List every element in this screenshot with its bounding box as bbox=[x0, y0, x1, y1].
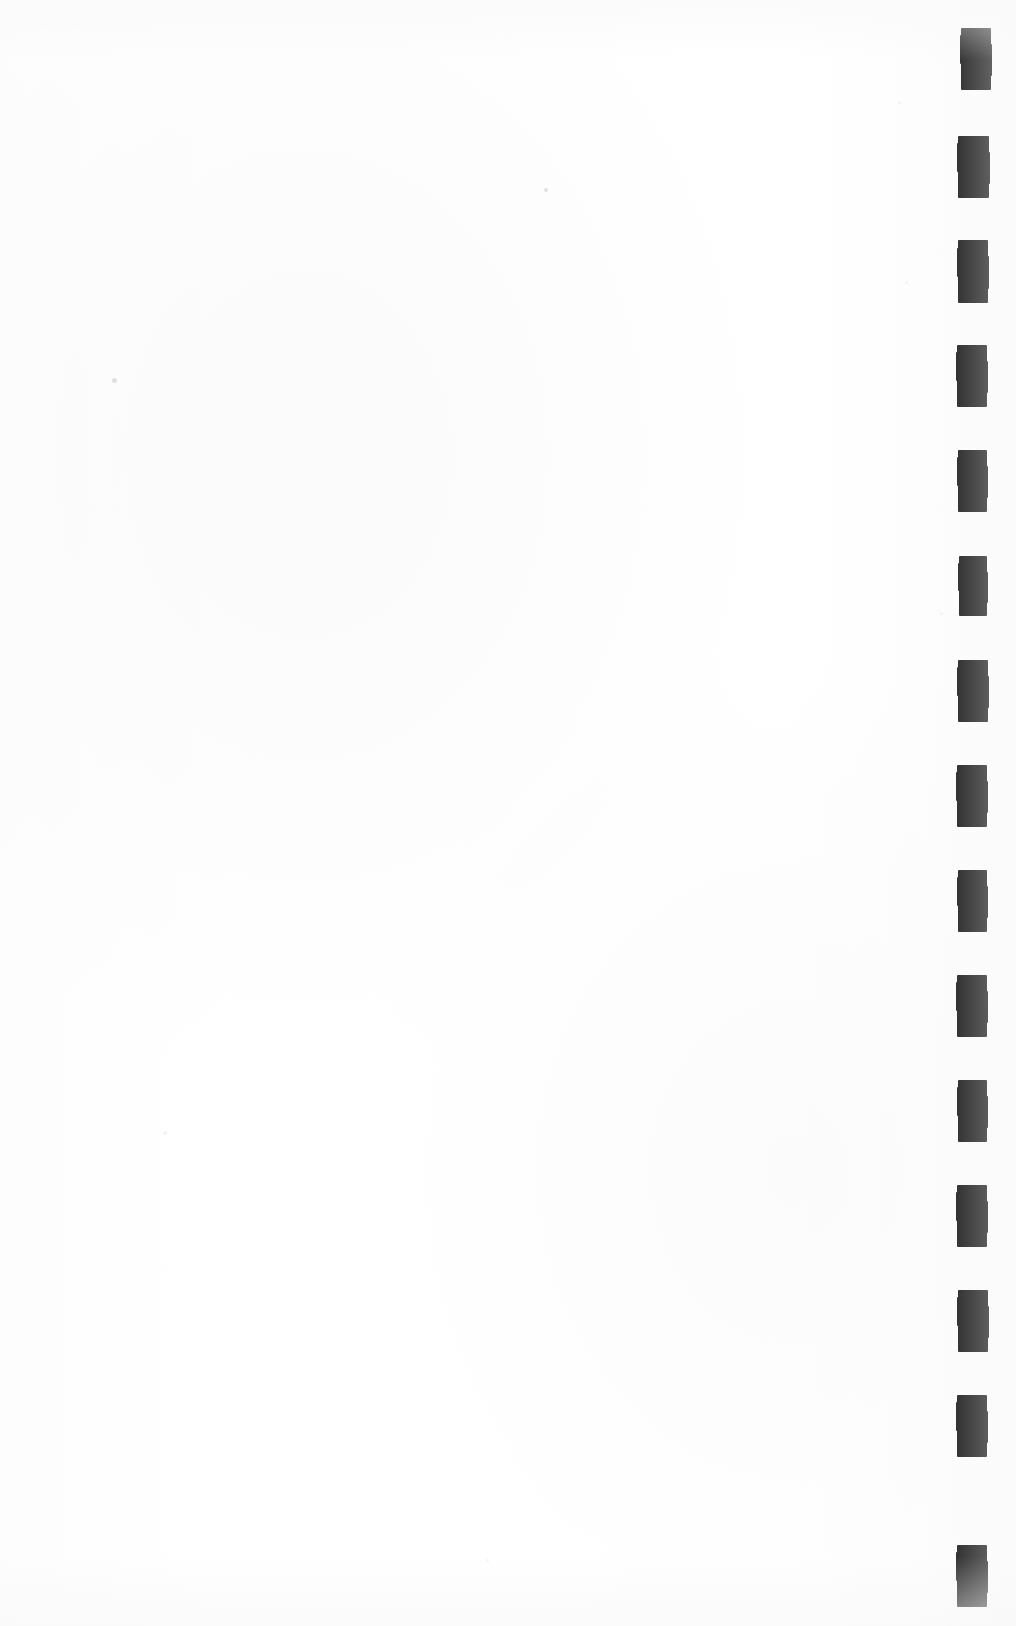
register-mark bbox=[957, 1185, 987, 1247]
scan-speck bbox=[905, 281, 908, 284]
register-mark bbox=[958, 870, 987, 932]
register-mark bbox=[958, 240, 988, 303]
register-mark bbox=[957, 345, 987, 407]
scanned-page bbox=[0, 0, 1016, 1626]
scan-speck bbox=[544, 188, 548, 192]
register-mark bbox=[958, 450, 987, 512]
register-mark bbox=[958, 136, 989, 198]
register-mark bbox=[959, 556, 987, 616]
register-mark bbox=[958, 660, 988, 722]
register-mark bbox=[957, 1545, 987, 1607]
page-body-blank-area bbox=[0, 0, 940, 1626]
register-mark bbox=[958, 1290, 988, 1352]
register-mark bbox=[958, 1080, 987, 1142]
scan-speck bbox=[940, 612, 943, 615]
scan-speck bbox=[486, 1559, 489, 1562]
scan-speck bbox=[163, 1131, 167, 1135]
register-mark bbox=[957, 975, 987, 1037]
scan-speck bbox=[112, 378, 117, 383]
register-mark bbox=[957, 1395, 987, 1457]
scan-speck bbox=[898, 101, 901, 104]
register-mark-strip bbox=[946, 0, 1016, 1626]
register-mark bbox=[961, 28, 991, 90]
register-mark bbox=[957, 765, 987, 827]
